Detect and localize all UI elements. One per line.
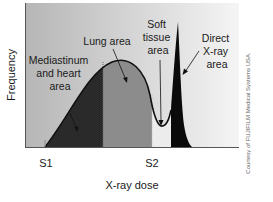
lung-label: Lung area [83,35,130,47]
tick-label-s2: S2 [145,157,158,169]
x-axis-label: X-ray dose [105,179,158,191]
tick-label-s1: S1 [39,157,52,169]
dose-histogram-diagram: Mediastinum and heart area Lung area Sof… [0,0,273,202]
image-credit: Courtesy of FUJIFILM Medical Systems USA… [245,52,251,174]
y-axis-label: Frequency [5,49,17,101]
